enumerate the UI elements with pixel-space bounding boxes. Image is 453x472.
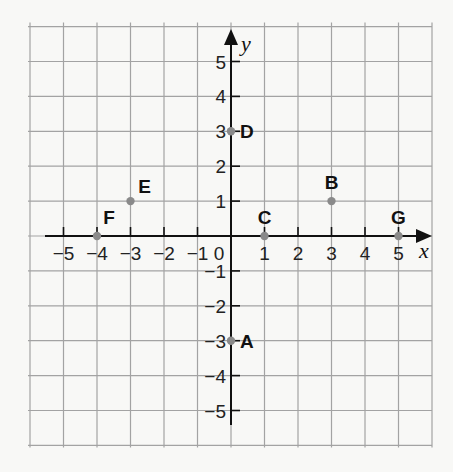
y-tick-label: −3 <box>204 331 226 352</box>
x-tick-label: 2 <box>293 243 304 264</box>
x-tick-label: −4 <box>86 243 108 264</box>
x-tick-label: 4 <box>360 243 371 264</box>
point-label-c: C <box>258 207 272 228</box>
y-axis-label: y <box>239 31 251 56</box>
point-c <box>260 232 268 240</box>
point-b <box>327 197 335 205</box>
point-label-f: F <box>103 207 115 228</box>
y-axis-arrow-icon <box>224 29 238 45</box>
x-tick-label: −3 <box>120 243 142 264</box>
x-tick-label: 5 <box>393 243 404 264</box>
coordinate-grid-svg: x y −5−4−3−2−101234554321−1−2−3−4−5 ABCD… <box>0 0 453 472</box>
y-tick-label: 2 <box>215 156 226 177</box>
point-label-g: G <box>391 207 406 228</box>
point-label-b: B <box>325 172 339 193</box>
x-axis-label: x <box>418 238 429 263</box>
x-tick-label: −2 <box>153 243 175 264</box>
x-tick-label: 1 <box>259 243 270 264</box>
point-label-d: D <box>240 121 254 142</box>
point-e <box>126 197 134 205</box>
point-label-e: E <box>138 176 151 197</box>
point-g <box>394 232 402 240</box>
point-label-a: A <box>240 331 254 352</box>
x-tick-label: 3 <box>326 243 337 264</box>
y-tick-label: −4 <box>204 366 226 387</box>
y-tick-label: 5 <box>215 52 226 73</box>
point-d <box>227 127 235 135</box>
y-tick-label: −1 <box>204 261 226 282</box>
y-tick-label: 4 <box>215 86 226 107</box>
y-tick-label: 1 <box>215 191 226 212</box>
point-f <box>93 232 101 240</box>
y-tick-label: −5 <box>204 401 226 422</box>
y-tick-label: −2 <box>204 296 226 317</box>
x-tick-label: −5 <box>53 243 75 264</box>
coordinate-plane: x y −5−4−3−2−101234554321−1−2−3−4−5 ABCD… <box>0 0 453 472</box>
point-a <box>227 337 235 345</box>
y-tick-label: 3 <box>215 121 226 142</box>
